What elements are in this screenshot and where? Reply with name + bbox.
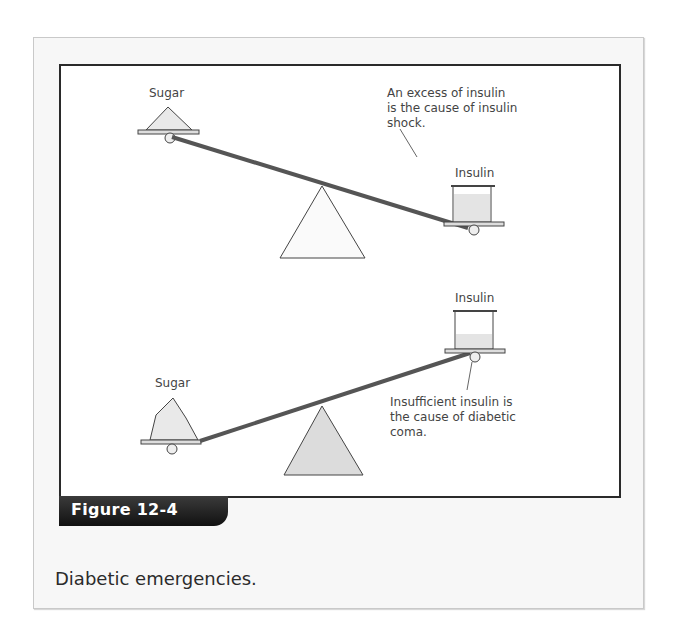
top-annotation: An excess of insulin is the cause of ins… <box>387 86 521 130</box>
bottom-sugar-label: Sugar <box>155 376 190 390</box>
figure-caption: Diabetic emergencies. <box>55 568 257 589</box>
top-fulcrum <box>280 186 365 258</box>
sugar-pile-icon <box>150 398 198 440</box>
top-sugar-label: Sugar <box>149 86 184 100</box>
bottom-fulcrum <box>284 406 363 475</box>
figure-number-tab: Figure 12-4 <box>59 496 228 526</box>
bottom-seesaw: Sugar Insulin Insufficient insulin is th… <box>141 291 520 475</box>
bottom-annotation: Insufficient insulin is the cause of dia… <box>390 395 520 439</box>
bottom-insulin-label: Insulin <box>455 291 494 305</box>
diabetes-balance-illustration: Sugar Insulin An excess of insulin is th… <box>0 0 678 638</box>
beaker-icon <box>453 311 497 349</box>
beaker-icon <box>451 186 495 222</box>
figure-number: Figure 12-4 <box>71 500 178 519</box>
top-insulin-label: Insulin <box>455 166 494 180</box>
top-seesaw: Sugar Insulin An excess of insulin is th… <box>138 86 521 258</box>
sugar-pile-icon <box>146 107 192 130</box>
